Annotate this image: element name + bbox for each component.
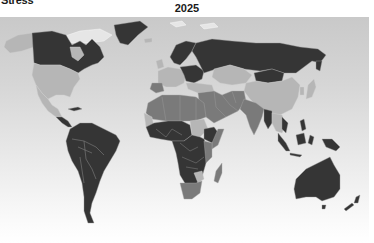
world-map-panel xyxy=(0,17,369,243)
region-java xyxy=(290,153,302,157)
region-borneo xyxy=(296,133,306,145)
region-svalbard xyxy=(170,21,186,27)
region-philippines xyxy=(300,119,306,131)
region-south-africa xyxy=(180,181,202,199)
world-map xyxy=(0,17,369,243)
region-greenland xyxy=(114,21,148,45)
region-north-africa xyxy=(146,95,206,121)
region-scandinavia xyxy=(170,41,196,65)
region-madagascar xyxy=(214,163,222,183)
region-west-africa xyxy=(146,121,192,141)
region-russia xyxy=(192,39,326,73)
region-south-america xyxy=(66,123,120,223)
region-myanmar xyxy=(264,109,272,129)
region-new-zealand xyxy=(344,195,360,211)
region-caribbean xyxy=(68,107,82,111)
region-middle-east xyxy=(198,91,246,123)
region-sulawesi xyxy=(308,135,314,145)
region-new-guinea xyxy=(322,139,340,151)
region-tasmania xyxy=(322,205,326,209)
region-sumatra xyxy=(278,133,290,151)
region-iberia xyxy=(150,83,164,93)
map-year-label: 2025 xyxy=(0,2,374,14)
region-novaya-zemlya xyxy=(200,23,218,29)
region-central-america xyxy=(56,117,72,127)
region-iceland xyxy=(144,38,152,43)
region-korea xyxy=(300,87,304,95)
region-kamchatka xyxy=(316,61,322,71)
region-alaska xyxy=(4,33,34,53)
region-japan xyxy=(306,79,316,99)
region-united-kingdom xyxy=(156,59,164,69)
region-australia xyxy=(294,157,340,201)
